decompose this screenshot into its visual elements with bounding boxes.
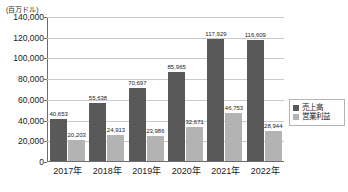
legend-label-profit: 営業利益	[302, 113, 330, 121]
y-axis-tick	[44, 38, 47, 39]
bar-sales: 70,697	[129, 88, 146, 161]
y-axis-tick	[44, 162, 47, 163]
y-axis-label: 0	[0, 157, 44, 167]
bar-profit: 32,671	[186, 127, 203, 161]
bar-value-label: 70,697	[128, 80, 146, 87]
y-axis-label: 140,000	[0, 12, 44, 22]
y-axis-label: 100,000	[0, 53, 44, 63]
bar-value-label: 55,638	[89, 95, 107, 102]
y-axis-label: 120,000	[0, 33, 44, 43]
y-axis-label: 20,000	[0, 136, 44, 146]
bar-sales: 117,929	[207, 39, 224, 161]
x-axis-label: 2018年	[88, 164, 128, 177]
bar-value-label: 24,913	[107, 127, 125, 134]
x-axis-label: 2021年	[206, 164, 246, 177]
x-axis-label: 2017年	[48, 164, 88, 177]
bar-value-label: 85,965	[167, 64, 185, 71]
bar-group: 55,63824,913	[87, 17, 126, 161]
x-axis-label: 2022年	[246, 164, 286, 177]
bar-sales: 55,638	[89, 103, 106, 161]
legend-item-sales: 売上高	[293, 104, 342, 112]
y-axis-label: 60,000	[0, 95, 44, 105]
bar-profit: 24,913	[107, 135, 124, 161]
bar-value-label: 32,671	[185, 119, 203, 126]
y-axis-tick	[44, 17, 47, 18]
y-axis-label: 40,000	[0, 116, 44, 126]
bar-chart: (百万ドル) 40,65320,20355,63824,91370,69723,…	[0, 0, 348, 192]
y-axis-tick	[44, 79, 47, 80]
legend-swatch-profit-icon	[293, 114, 299, 120]
bar-value-label: 28,944	[264, 123, 282, 130]
y-axis-tick	[44, 100, 47, 101]
legend-swatch-sales-icon	[293, 105, 299, 111]
legend-label-sales: 売上高	[302, 104, 323, 112]
bar-sales: 85,965	[168, 72, 185, 161]
bar-group: 117,92946,753	[205, 17, 244, 161]
bar-value-label: 23,986	[146, 128, 164, 135]
bar-value-label: 20,203	[67, 132, 85, 139]
y-axis-tick	[44, 141, 47, 142]
legend: 売上高 営業利益	[289, 99, 345, 126]
bar-value-label: 116,609	[245, 32, 266, 39]
bar-group: 70,69723,986	[127, 17, 166, 161]
x-axis-line	[47, 161, 284, 162]
bar-value-label: 46,753	[225, 105, 243, 112]
bar-group: 85,96532,671	[166, 17, 205, 161]
x-axis-label: 2019年	[127, 164, 167, 177]
x-axis-labels: 2017年2018年2019年2020年2021年2022年	[48, 164, 285, 177]
bar-profit: 20,203	[68, 140, 85, 161]
bar-group: 116,60928,944	[245, 17, 284, 161]
bar-sales: 116,609	[247, 40, 264, 161]
bar-value-label: 40,653	[49, 111, 67, 118]
y-axis-tick	[44, 121, 47, 122]
bar-profit: 28,944	[265, 131, 282, 161]
y-axis-label: 80,000	[0, 74, 44, 84]
y-axis-tick	[44, 58, 47, 59]
plot-area: 40,65320,20355,63824,91370,69723,98685,9…	[47, 17, 284, 162]
bar-groups: 40,65320,20355,63824,91370,69723,98685,9…	[48, 17, 284, 161]
bar-sales: 40,653	[50, 119, 67, 161]
bar-value-label: 117,929	[205, 31, 226, 38]
bar-profit: 23,986	[147, 136, 164, 161]
x-axis-label: 2020年	[167, 164, 207, 177]
bar-profit: 46,753	[225, 113, 242, 161]
bar-group: 40,65320,203	[48, 17, 87, 161]
legend-item-profit: 営業利益	[293, 113, 342, 121]
